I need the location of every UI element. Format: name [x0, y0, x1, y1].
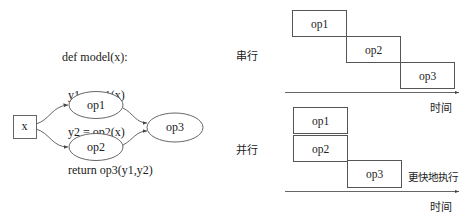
- parallel-op3-box: op3: [347, 160, 402, 188]
- node-op3-label: op3: [147, 120, 203, 135]
- node-x-label: x: [13, 115, 36, 138]
- faster-annotation: 更快地执行: [408, 169, 458, 184]
- serial-axis-label: 时间: [430, 99, 452, 115]
- serial-label: 串行: [236, 47, 258, 63]
- edge-x-op1: [36, 105, 68, 124]
- parallel-op1-box: op1: [293, 107, 348, 134]
- edge-op2-op3: [123, 131, 147, 145]
- serial-op2-box: op2: [346, 36, 401, 63]
- parallel-axis-label: 时间: [430, 198, 452, 214]
- serial-op1-box: op1: [292, 10, 347, 37]
- node-op2-label: op2: [69, 140, 123, 155]
- parallel-op2-box: op2: [293, 135, 348, 162]
- edge-op1-op3: [123, 108, 147, 123]
- parallel-label: 并行: [236, 141, 258, 157]
- node-op1-label: op1: [69, 98, 123, 113]
- edge-x-op2: [36, 129, 68, 147]
- serial-op3-box: op3: [400, 62, 455, 89]
